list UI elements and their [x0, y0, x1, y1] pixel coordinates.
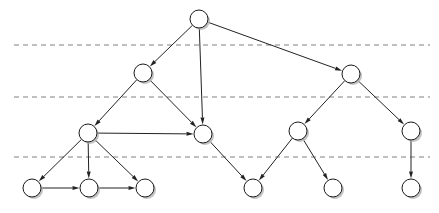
arrow-head-icon: [323, 173, 328, 180]
node-center-sink[interactable]: [194, 125, 214, 145]
edge-leaf-a-to-leaf-b: [41, 186, 80, 190]
node-left-hub[interactable]: [79, 124, 99, 144]
node-circle[interactable]: [402, 179, 420, 197]
edge-right-mid-to-far-right: [358, 80, 405, 124]
node-circle[interactable]: [324, 179, 342, 197]
graph-edges: [39, 22, 413, 190]
edge-root-to-center-sink: [199, 28, 204, 125]
node-leaf-f[interactable]: [402, 179, 422, 199]
graph-svg: [0, 0, 439, 213]
node-circle[interactable]: [402, 122, 420, 140]
edge-right-mid-to-fork: [304, 81, 344, 124]
node-circle[interactable]: [190, 10, 208, 28]
edge-root-to-right-mid: [207, 22, 342, 71]
node-circle[interactable]: [23, 179, 41, 197]
diagram-canvas: [0, 0, 439, 213]
edge-left-hub-to-leaf-b: [87, 142, 91, 179]
arrow-head-icon: [186, 132, 193, 136]
node-circle[interactable]: [79, 124, 97, 142]
edge-left-hub-to-leaf-c: [94, 139, 138, 181]
node-circle[interactable]: [244, 179, 262, 197]
layer-separator-lines: [14, 45, 430, 157]
node-leaf-c[interactable]: [136, 179, 156, 199]
node-leaf-a[interactable]: [23, 179, 43, 199]
graph-nodes: [23, 10, 422, 199]
edge-left-mid-to-center: [149, 79, 196, 127]
node-left-mid[interactable]: [134, 64, 154, 84]
node-circle[interactable]: [289, 122, 307, 140]
node-root[interactable]: [190, 10, 210, 30]
node-right-mid[interactable]: [342, 65, 362, 85]
edge-fork-to-leaf-e: [303, 139, 328, 180]
node-leaf-e[interactable]: [324, 179, 344, 199]
node-circle[interactable]: [194, 125, 212, 143]
edge-root-to-left-mid: [150, 25, 193, 66]
edge-left-hub-to-leaf-a: [39, 139, 82, 181]
node-leaf-b[interactable]: [80, 179, 100, 199]
node-leaf-d[interactable]: [244, 179, 264, 199]
arrow-head-icon: [129, 186, 136, 190]
edge-left-hub-to-center: [97, 132, 194, 136]
arrow-head-icon: [87, 171, 91, 178]
arrow-head-icon: [335, 67, 342, 71]
edge-center-to-leaf-d: [209, 141, 246, 181]
arrow-head-icon: [73, 186, 80, 190]
edge-fork-to-leaf-d: [259, 138, 293, 180]
arrow-head-icon: [200, 117, 204, 124]
arrow-head-icon: [409, 172, 413, 179]
node-far-right[interactable]: [402, 122, 422, 142]
node-circle[interactable]: [134, 64, 152, 82]
node-circle[interactable]: [136, 179, 154, 197]
edge-left-mid-to-left-hub: [94, 80, 137, 126]
edge-far-right-to-leaf-f: [409, 140, 413, 179]
edge-leaf-b-to-leaf-c: [98, 186, 136, 190]
node-circle[interactable]: [342, 65, 360, 83]
node-circle[interactable]: [80, 179, 98, 197]
